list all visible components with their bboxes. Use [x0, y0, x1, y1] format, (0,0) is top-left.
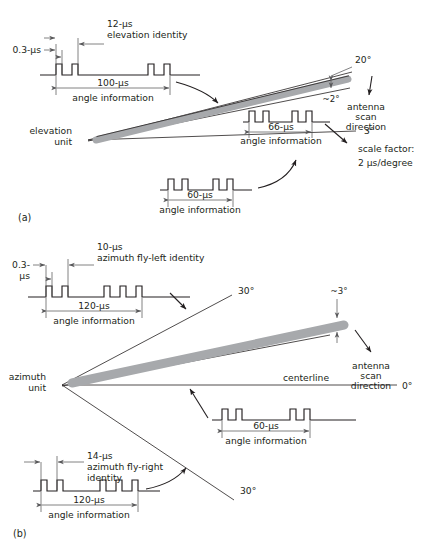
elevation-span-60us-name: angle information: [159, 204, 241, 215]
panel-b-caption: (b): [13, 528, 27, 539]
elevation-scan-beam: [96, 76, 349, 140]
arrow-fly-left-to-30deg: [170, 293, 186, 309]
elevation-unit-label: elevation unit: [29, 125, 72, 147]
scale-factor-line1: scale factor:: [358, 143, 414, 154]
azimuth-fly-left-identity-value: 10-μs: [97, 241, 123, 252]
elevation-identity-name: elevation identity: [107, 29, 188, 40]
elevation-waveform-66us: 66-μs angle information: [240, 111, 330, 146]
arrow-100us-to-beam: [176, 82, 218, 103]
elevation-span-60us-value: 60-μs: [187, 189, 213, 200]
mls-angle-guidance-diagram: elevation unit 0.3-μs 12-μs elevation id…: [0, 0, 425, 547]
azimuth-span-120us-top-name: angle information: [53, 315, 135, 326]
azimuth-span-120us-bottom-name: angle information: [48, 509, 130, 520]
elevation-span-66us-value: 66-μs: [268, 121, 294, 132]
azimuth-waveform-60us: 60-μs angle information: [212, 409, 356, 446]
elevation-waveform-60us: 60-μs angle information: [159, 179, 252, 215]
azimuth-angle-30deg-lower-label: 30°: [240, 485, 256, 496]
azimuth-beamwidth-3deg: ~3°: [331, 286, 348, 343]
elevation-beam-upper-edge-line: [97, 76, 350, 137]
azimuth-pulse-width-line1: 0.3-: [12, 259, 30, 270]
dim-120us-fly-right: 120-μs angle information: [41, 492, 138, 520]
elevation-beamwidth-label: ~2°: [323, 94, 340, 104]
azimuth-unit-label-line1: azimuth: [9, 371, 46, 382]
elevation-unit-label-line1: elevation: [29, 125, 72, 136]
antenna-scan-arrow-a: [369, 76, 372, 95]
azimuth-unit-label-line2: unit: [28, 382, 46, 393]
arrow-60us-to-centerline: [190, 389, 208, 418]
azimuth-span-60us-name: angle information: [225, 435, 307, 446]
azimuth-fly-left-identity-name: azimuth fly-left identity: [97, 252, 205, 263]
dim-0p3us-elevation: 0.3-μs: [12, 38, 104, 74]
dim-0p3us-azimuth: 0.3- μs: [12, 259, 94, 296]
azimuth-fly-right-identity-name-line1: azimuth fly-right: [87, 461, 163, 472]
azimuth-angle-30deg-upper-label: 30°: [238, 285, 254, 296]
elevation-identity-value: 12-μs: [107, 18, 133, 29]
antenna-scan-arrow-b: [355, 330, 371, 352]
azimuth-centerline-label: centerline: [283, 372, 329, 383]
elevation-identity-callout: 12-μs elevation identity: [107, 18, 188, 40]
elevation-span-100us-value: 100-μs: [97, 77, 129, 88]
elevation-span-66us-name: angle information: [240, 135, 322, 146]
azimuth-angle-0deg-label: 0°: [402, 380, 412, 391]
azimuth-unit-label: azimuth unit: [9, 371, 47, 393]
azimuth-antenna-scan-direction: antenna scan direction: [351, 330, 391, 391]
azimuth-pulse-width-line2: μs: [19, 270, 30, 281]
azimuth-fly-right-identity-callout: 14-μs azimuth fly-right identity: [24, 450, 163, 490]
arrow-66us-to-3deg: [325, 124, 347, 143]
azimuth-fly-right-identity-value: 14-μs: [87, 450, 113, 461]
azimuth-fly-left-identity-callout: 10-μs azimuth fly-left identity: [97, 241, 205, 263]
azimuth-span-120us-bottom-value: 120-μs: [73, 494, 105, 505]
dim-120us-fly-left: 120-μs angle information: [46, 298, 142, 326]
antenna-scan-line3-b: direction: [351, 380, 391, 391]
antenna-scan-line3-a: direction: [346, 121, 386, 132]
elevation-scale-factor: scale factor: 2 μs/degree: [358, 143, 414, 168]
dim-100us-angle-information: 100-μs angle information: [56, 76, 170, 103]
panel-a-caption: (a): [18, 212, 31, 223]
azimuth-angle-30deg-upper: 30°: [238, 285, 254, 296]
elevation-antenna-scan-direction: antenna scan direction: [346, 76, 386, 132]
azimuth-fly-right-identity-name-line2: identity: [87, 472, 123, 483]
elevation-angle-20deg: 20°: [331, 54, 371, 76]
elevation-waveform-100us: [40, 64, 200, 75]
elevation-span-100us-name: angle information: [72, 92, 154, 103]
elevation-pulse-width-label: 0.3-μs: [12, 44, 41, 55]
azimuth-60us-pulse-train: [212, 409, 356, 420]
azimuth-span-60us-value: 60-μs: [253, 420, 279, 431]
elevation-angle-20deg-label: 20°: [355, 54, 371, 65]
elevation-identity-pulse-train: [40, 64, 200, 75]
scale-factor-line2: 2 μs/degree: [358, 157, 413, 168]
azimuth-beamwidth-label: ~3°: [331, 286, 348, 296]
arrow-60us-to-lower-line: [258, 160, 296, 188]
elevation-unit-label-line2: unit: [54, 136, 72, 147]
azimuth-span-120us-top-value: 120-μs: [78, 300, 110, 311]
